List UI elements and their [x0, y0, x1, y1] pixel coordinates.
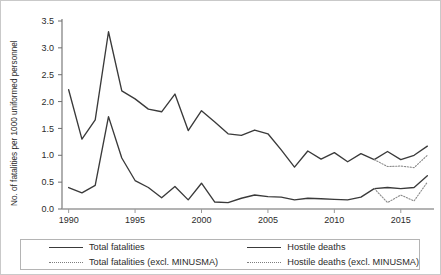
- plot-area: No. of fatalities per 1000 uniformed per…: [1, 1, 441, 233]
- series-line-total-fatalities-excl-minusma: [374, 155, 427, 167]
- x-tick-label: 2000: [191, 215, 211, 225]
- legend-label: Total fatalities: [89, 242, 145, 252]
- legend-label: Hostile deaths (excl. MINUSMA): [287, 257, 419, 267]
- data-series-group: [69, 32, 428, 203]
- y-axis-title: No. of fatalities per 1000 uniformed per…: [10, 40, 19, 206]
- legend-grid: Total fatalities Hostile deaths Total fa…: [21, 240, 419, 269]
- y-tick-label: 3.5: [41, 16, 54, 26]
- y-tick-marks: [58, 21, 62, 209]
- legend-item-total-fatalities-excl-minusma: Total fatalities (excl. MINUSMA): [21, 257, 219, 267]
- x-tick-label: 1995: [125, 215, 145, 225]
- x-tick-label: 2015: [391, 215, 411, 225]
- y-tick-label: 0.0: [41, 204, 54, 214]
- y-tick-label: 1.0: [41, 150, 54, 160]
- y-tick-label: 0.5: [41, 177, 54, 187]
- series-line-total-fatalities: [69, 32, 428, 167]
- chart-figure: No. of fatalities per 1000 uniformed per…: [0, 0, 441, 275]
- y-tick-label: 2.5: [41, 70, 54, 80]
- legend-item-hostile-deaths: Hostile deaths: [219, 242, 419, 252]
- legend-label: Hostile deaths: [287, 242, 345, 252]
- x-tick-labels: 199019952000200520102015: [59, 215, 411, 225]
- x-tick-label: 2010: [324, 215, 344, 225]
- line-chart-svg: No. of fatalities per 1000 uniformed per…: [1, 1, 441, 233]
- legend-item-total-fatalities: Total fatalities: [21, 242, 219, 252]
- legend-line-dotted-icon: [247, 258, 281, 266]
- chart-legend: Total fatalities Hostile deaths Total fa…: [20, 239, 420, 270]
- legend-line-dotted-icon: [49, 258, 83, 266]
- y-tick-label: 1.5: [41, 124, 54, 134]
- y-axis-title-group: No. of fatalities per 1000 uniformed per…: [10, 40, 19, 206]
- x-tick-label: 1990: [59, 215, 79, 225]
- legend-line-solid-icon: [247, 243, 281, 251]
- y-tick-labels: 0.00.51.01.52.02.53.03.5: [41, 16, 54, 214]
- legend-item-hostile-deaths-excl-minusma: Hostile deaths (excl. MINUSMA): [219, 257, 419, 267]
- y-tick-label: 3.0: [41, 43, 54, 53]
- legend-line-solid-icon: [49, 243, 83, 251]
- legend-label: Total fatalities (excl. MINUSMA): [89, 257, 218, 267]
- y-tick-label: 2.0: [41, 97, 54, 107]
- series-line-hostile-deaths-excl-minusma: [374, 182, 427, 202]
- x-tick-label: 2005: [258, 215, 278, 225]
